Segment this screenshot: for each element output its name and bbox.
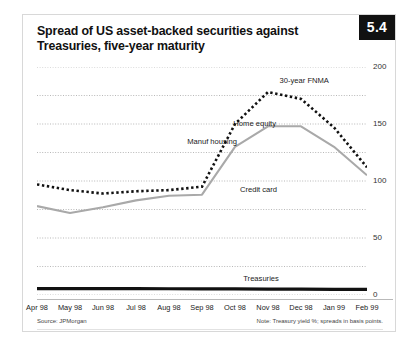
series-treasuries xyxy=(37,289,367,290)
chart-plot-area xyxy=(37,67,367,295)
source-text: Source: JPMorgan xyxy=(37,318,87,324)
annotation-credit-card: Credit card xyxy=(240,185,277,194)
x-tick-apr-98: Apr 98 xyxy=(26,303,48,312)
y-tick-50: 50 xyxy=(373,233,395,242)
x-axis-tick-labels: Apr 98May 98Jun 98Jul 98Aug 98Sep 98Oct … xyxy=(37,303,367,315)
y-tick-0: 0 xyxy=(373,290,395,299)
figure-footer: Source: JPMorgan Note: Treasury yield %;… xyxy=(37,318,383,328)
annotation-home-equity: Home equity xyxy=(233,119,276,128)
annotation-30-year-fnma: 30-year FNMA xyxy=(280,76,329,85)
figure-number-badge: 5.4 xyxy=(359,15,395,40)
y-tick-100: 100 xyxy=(373,176,395,185)
x-tick-oct-98: Oct 98 xyxy=(224,303,246,312)
annotation-treasuries: Treasuries xyxy=(243,274,279,283)
footer-rule xyxy=(37,329,383,330)
chart-svg xyxy=(37,67,367,295)
y-tick-200: 200 xyxy=(373,62,395,71)
annotation-manuf-housing: Manuf housing xyxy=(187,137,237,146)
figure-title-line-1: Spread of US asset-backed securities aga… xyxy=(37,24,337,39)
x-tick-aug-98: Aug 98 xyxy=(157,303,180,312)
y-tick-150: 150 xyxy=(373,119,395,128)
x-tick-dec-98: Dec 98 xyxy=(289,303,312,312)
x-tick-may-98: May 98 xyxy=(58,303,82,312)
x-tick-jun-98: Jun 98 xyxy=(92,303,114,312)
x-tick-nov-98: Nov 98 xyxy=(256,303,279,312)
figure-card: 5.4 Spread of US asset-backed securities… xyxy=(22,14,396,332)
x-tick-feb-99: Feb 99 xyxy=(355,303,378,312)
chart-gridlines xyxy=(37,67,367,295)
note-text: Note: Treasury yield %; spreads in basis… xyxy=(257,318,383,324)
x-tick-jul-98: Jul 98 xyxy=(126,303,146,312)
x-axis-rule xyxy=(37,299,393,300)
x-tick-jan-99: Jan 99 xyxy=(323,303,345,312)
figure-title-line-2: Treasuries, five-year maturity xyxy=(37,39,337,54)
figure-title: Spread of US asset-backed securities aga… xyxy=(37,24,337,54)
x-tick-sep-98: Sep 98 xyxy=(190,303,213,312)
